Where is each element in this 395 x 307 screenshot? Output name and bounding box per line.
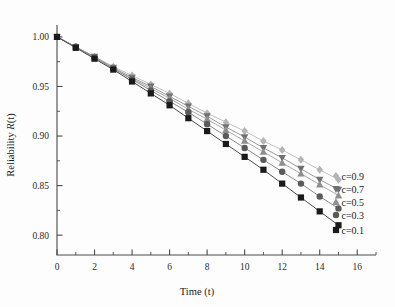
marker-circle: [223, 133, 229, 139]
y-tick-label: 0.90: [32, 131, 49, 141]
marker-circle: [317, 193, 323, 199]
marker-circle: [298, 180, 304, 186]
marker-triangle-up: [332, 198, 339, 205]
series-line: [57, 37, 338, 225]
legend-label-c-0-3: c=0.3: [342, 210, 365, 221]
marker-diamond: [260, 137, 267, 145]
marker-circle: [260, 157, 266, 163]
marker-square: [54, 34, 60, 40]
x-tick-label: 12: [277, 262, 287, 272]
marker-square: [204, 128, 210, 134]
series-line: [57, 37, 338, 209]
marker-diamond: [241, 127, 248, 135]
marker-diamond: [316, 166, 323, 174]
y-axis-title: Reliability R(t): [5, 113, 17, 177]
marker-square: [260, 167, 266, 173]
marker-triangle-up: [316, 181, 323, 188]
legend-label-c-0-1: c=0.1: [342, 225, 365, 236]
y-tick-label: 0.85: [32, 181, 49, 191]
marker-square: [110, 67, 116, 73]
chart-canvas: 02468101214160.800.850.900.951.00 c=0.9c…: [0, 0, 395, 307]
marker-circle: [204, 121, 210, 127]
x-tick-label: 6: [167, 262, 172, 272]
marker-square: [298, 194, 304, 200]
marker-circle: [185, 109, 191, 115]
data-series-group: [53, 33, 342, 228]
marker-square: [185, 115, 191, 121]
x-tick-label: 16: [352, 262, 362, 272]
x-tick-label: 4: [130, 262, 135, 272]
y-axis-title-suffix: (t): [5, 113, 17, 123]
marker-square: [166, 102, 172, 108]
marker-square: [129, 78, 135, 84]
marker-circle: [241, 145, 247, 151]
x-tick-label: 8: [205, 262, 210, 272]
marker-diamond: [298, 156, 305, 164]
marker-circle: [333, 212, 339, 218]
x-tick-label: 10: [240, 262, 250, 272]
marker-triangle-up: [222, 126, 229, 133]
marker-square: [242, 154, 248, 160]
reliability-chart-figure: 02468101214160.800.850.900.951.00 c=0.9c…: [0, 0, 395, 307]
x-tick-label: 0: [55, 262, 60, 272]
marker-square: [317, 208, 323, 214]
y-tick-label: 1.00: [32, 32, 49, 42]
marker-diamond: [279, 146, 286, 154]
marker-circle: [279, 169, 285, 175]
x-axis-title: Time (t): [180, 286, 215, 298]
x-tick-label: 2: [92, 262, 97, 272]
legend-label-c-0-5: c=0.5: [342, 197, 365, 208]
marker-square: [279, 181, 285, 187]
marker-square: [91, 56, 97, 62]
legend-label-c-0-7: c=0.7: [342, 184, 365, 195]
y-tick-label: 0.95: [32, 82, 49, 92]
axes: 02468101214160.800.850.900.951.00: [32, 25, 376, 272]
marker-square: [73, 45, 79, 51]
series-c-0-1: [54, 34, 342, 229]
axis-lines: [57, 25, 376, 255]
y-tick-label: 0.80: [32, 231, 49, 241]
x-tick-label: 14: [315, 262, 325, 272]
marker-square: [223, 141, 229, 147]
marker-square: [333, 227, 339, 233]
legend-label-c-0-9: c=0.9: [342, 171, 365, 182]
series-line: [57, 37, 338, 180]
marker-square: [148, 90, 154, 96]
y-axis-title-prefix: Reliability: [5, 130, 16, 177]
